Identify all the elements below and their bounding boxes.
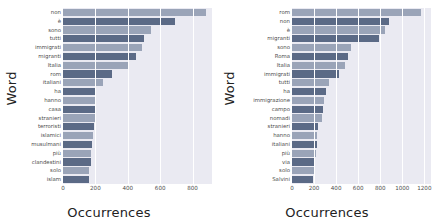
y-tick-label: immigrazione bbox=[250, 96, 292, 105]
y-tick-label: ha bbox=[250, 87, 292, 96]
x-axis-label-right: Occurrences bbox=[218, 205, 436, 220]
bar-row bbox=[63, 158, 212, 167]
bar bbox=[63, 35, 144, 42]
bar-row bbox=[292, 122, 431, 131]
bar-row bbox=[292, 34, 431, 43]
gridline bbox=[424, 8, 425, 184]
bar bbox=[63, 9, 206, 16]
bar bbox=[292, 150, 316, 157]
y-tick-label: italiani bbox=[21, 78, 63, 87]
y-tick-label: solo bbox=[250, 166, 292, 175]
x-tick-label: 200 bbox=[90, 185, 101, 191]
y-tick-label: sono bbox=[250, 43, 292, 52]
y-tick-label: tutti bbox=[21, 34, 63, 43]
y-tick-label: tutti bbox=[250, 78, 292, 87]
x-tick-label: 600 bbox=[353, 185, 364, 191]
y-tick-label: non bbox=[250, 17, 292, 26]
bar-series-right bbox=[292, 8, 431, 184]
x-tick-label: 0 bbox=[61, 185, 65, 191]
y-tick-label: hanno bbox=[21, 96, 63, 105]
bar bbox=[63, 150, 91, 157]
bar-row bbox=[292, 149, 431, 158]
gridline bbox=[314, 8, 315, 184]
y-tick-label: stranieri bbox=[250, 122, 292, 131]
gridline bbox=[380, 8, 381, 184]
bar-row bbox=[63, 34, 212, 43]
bar bbox=[292, 97, 324, 104]
bar bbox=[63, 79, 103, 86]
y-tick-label: Roma bbox=[250, 52, 292, 61]
bar bbox=[292, 114, 322, 121]
bar-row bbox=[63, 114, 212, 123]
gridline bbox=[402, 8, 403, 184]
bar bbox=[63, 114, 95, 121]
bar-row bbox=[292, 8, 431, 17]
bar bbox=[63, 141, 92, 148]
bar-row bbox=[63, 52, 212, 61]
y-tick-label: sono bbox=[21, 26, 63, 35]
y-tick-label: islam bbox=[21, 175, 63, 184]
bar-row bbox=[292, 17, 431, 26]
bar bbox=[292, 176, 313, 183]
bar-row bbox=[292, 96, 431, 105]
bar bbox=[63, 176, 89, 183]
y-tick-label: immigrati bbox=[21, 43, 63, 52]
bar-row bbox=[63, 105, 212, 114]
bar-row bbox=[63, 78, 212, 87]
x-tick-label: 200 bbox=[309, 185, 320, 191]
x-tick-label: 800 bbox=[187, 185, 198, 191]
y-tick-label: islamici bbox=[21, 131, 63, 140]
x-tick-label: 1200 bbox=[417, 185, 431, 191]
bar-row bbox=[63, 26, 212, 35]
y-tick-label: stranieri bbox=[21, 114, 63, 123]
bar-row bbox=[292, 26, 431, 35]
x-tick-label: 1000 bbox=[395, 185, 409, 191]
bar-row bbox=[63, 87, 212, 96]
x-axis-label-left: Occurrences bbox=[0, 205, 218, 220]
y-tick-label: rom bbox=[250, 8, 292, 17]
y-tick-label: nomadi bbox=[250, 114, 292, 123]
y-tick-label: è bbox=[250, 26, 292, 35]
bar bbox=[63, 123, 94, 130]
bar-series-left bbox=[63, 8, 212, 184]
y-tick-label: migranti bbox=[250, 34, 292, 43]
bar bbox=[292, 106, 323, 113]
plot-area-left bbox=[63, 8, 212, 184]
bar-row bbox=[63, 61, 212, 70]
bar bbox=[63, 26, 151, 33]
bar-row bbox=[63, 8, 212, 17]
y-tick-label: migranti bbox=[21, 52, 63, 61]
gridline bbox=[358, 8, 359, 184]
y-tick-label: immigrati bbox=[250, 70, 292, 79]
bar bbox=[63, 97, 95, 104]
y-tick-label: Salvini bbox=[250, 175, 292, 184]
y-tick-label: campo bbox=[250, 105, 292, 114]
x-tick-label: 800 bbox=[375, 185, 386, 191]
bar-row bbox=[63, 122, 212, 131]
bar bbox=[63, 158, 91, 165]
bar bbox=[292, 70, 339, 77]
bar bbox=[292, 167, 314, 174]
bar bbox=[292, 79, 329, 86]
bar bbox=[292, 26, 385, 33]
y-axis-label-right: Word bbox=[220, 0, 238, 176]
bar-row bbox=[292, 52, 431, 61]
y-tick-label: solo bbox=[21, 166, 63, 175]
chart-panel-left: Word nonèsonotuttiimmigratimigrantiItali… bbox=[0, 0, 218, 221]
y-tick-label: clandestini bbox=[21, 158, 63, 167]
bar bbox=[292, 53, 348, 60]
gridline bbox=[193, 8, 194, 184]
bar bbox=[292, 158, 315, 165]
bar-row bbox=[292, 175, 431, 184]
y-tick-label: Italia bbox=[21, 61, 63, 70]
bar bbox=[63, 106, 95, 113]
bar-row bbox=[292, 70, 431, 79]
x-tick-labels-left: 0200400600800 bbox=[63, 185, 212, 197]
bar-row bbox=[63, 140, 212, 149]
y-tick-label: hanno bbox=[250, 131, 292, 140]
bar bbox=[292, 44, 351, 51]
y-tick-label: Italia bbox=[250, 61, 292, 70]
bar bbox=[292, 18, 389, 25]
chart-panel-right: Word romnonèmigrantisonoRomaItaliaimmigr… bbox=[218, 0, 436, 221]
bar-row bbox=[63, 70, 212, 79]
